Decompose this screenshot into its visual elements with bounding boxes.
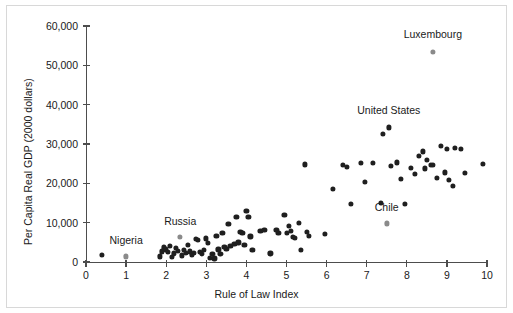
data-point: [422, 166, 427, 171]
data-point: [186, 242, 191, 247]
scatter-plot: 010,00020,00030,00040,00050,00060,000 01…: [0, 0, 513, 313]
data-point: [446, 178, 451, 183]
point-annotation: Chile: [375, 201, 399, 213]
data-point: [240, 230, 245, 235]
data-point: [402, 201, 407, 206]
data-point-highlighted: [178, 235, 183, 240]
x-tick-label: 1: [111, 270, 141, 280]
data-point: [99, 252, 104, 257]
data-point: [214, 233, 219, 238]
data-point: [434, 175, 439, 180]
x-tick: [446, 260, 447, 267]
data-point: [234, 214, 239, 219]
data-point: [450, 183, 455, 188]
data-point: [438, 143, 443, 148]
data-point: [192, 250, 197, 255]
data-point: [262, 228, 267, 233]
data-point: [268, 251, 273, 256]
data-point: [452, 145, 457, 150]
data-point: [412, 172, 417, 177]
x-tick: [85, 260, 86, 267]
data-point: [462, 171, 467, 176]
data-point: [348, 202, 353, 207]
data-point: [322, 231, 327, 236]
data-point: [200, 252, 205, 257]
x-tick: [366, 260, 367, 267]
data-point: [306, 233, 311, 238]
data-point: [250, 248, 255, 253]
y-tick: [83, 104, 90, 105]
data-point: [398, 176, 403, 181]
data-point: [296, 220, 301, 225]
data-point-highlighted: [430, 49, 435, 54]
data-point: [168, 243, 173, 248]
x-tick-label: 5: [272, 270, 302, 280]
data-point: [370, 160, 375, 165]
data-point: [202, 247, 207, 252]
x-tick-label: 10: [472, 270, 502, 280]
x-tick-label: 2: [151, 270, 181, 280]
data-point: [480, 161, 485, 166]
x-tick-label: 7: [352, 270, 382, 280]
x-tick: [166, 260, 167, 267]
data-point: [220, 230, 225, 235]
x-tick: [246, 260, 247, 267]
x-tick-label: 6: [312, 270, 342, 280]
data-point: [388, 163, 393, 168]
data-point: [394, 160, 399, 165]
data-point: [244, 208, 249, 213]
data-point: [416, 154, 421, 159]
x-tick-label: 0: [71, 270, 101, 280]
x-tick: [406, 260, 407, 267]
y-axis-title: Per Capita Real GDP (2000 dollars): [22, 78, 34, 245]
data-point: [242, 242, 247, 247]
data-point: [212, 256, 217, 261]
data-point: [408, 165, 413, 170]
y-tick: [83, 25, 90, 26]
data-point: [298, 247, 303, 252]
data-point: [420, 149, 425, 154]
point-annotation: Luxembourg: [404, 28, 462, 40]
x-tick-label: 8: [392, 270, 422, 280]
point-annotation: United States: [357, 104, 420, 116]
x-tick: [206, 260, 207, 267]
x-axis-title: Rule of Law Index: [0, 288, 513, 300]
data-point: [302, 162, 307, 167]
y-tick-label: 50,000: [20, 60, 78, 70]
data-point: [362, 179, 367, 184]
figure-container: 010,00020,00030,00040,00050,00060,000 01…: [0, 0, 513, 313]
y-tick-label: 60,000: [20, 21, 78, 31]
y-tick: [83, 222, 90, 223]
data-point: [248, 234, 253, 239]
x-tick: [326, 260, 327, 267]
data-point-highlighted: [384, 221, 389, 226]
data-point: [386, 125, 391, 130]
data-point: [226, 222, 231, 227]
data-point: [282, 212, 287, 217]
data-point: [276, 230, 281, 235]
data-point: [444, 146, 449, 151]
y-tick-label: 0: [20, 257, 78, 267]
data-point: [442, 170, 447, 175]
x-tick-label: 9: [432, 270, 462, 280]
data-point: [236, 240, 241, 245]
data-point: [330, 187, 335, 192]
x-tick: [486, 260, 487, 267]
data-point: [288, 228, 293, 233]
data-point: [358, 160, 363, 165]
data-point: [246, 214, 251, 219]
y-axis-line: [86, 26, 87, 264]
data-point: [380, 131, 385, 136]
point-annotation: Russia: [164, 215, 196, 227]
x-tick-label: 3: [191, 270, 221, 280]
data-point: [344, 164, 349, 169]
data-point: [196, 237, 201, 242]
y-tick: [83, 183, 90, 184]
x-tick: [125, 260, 126, 267]
data-point: [158, 254, 163, 259]
data-point: [218, 251, 223, 256]
data-point-highlighted: [124, 254, 129, 259]
data-point: [430, 163, 435, 168]
point-annotation: Nigeria: [109, 234, 142, 246]
data-point: [458, 147, 463, 152]
